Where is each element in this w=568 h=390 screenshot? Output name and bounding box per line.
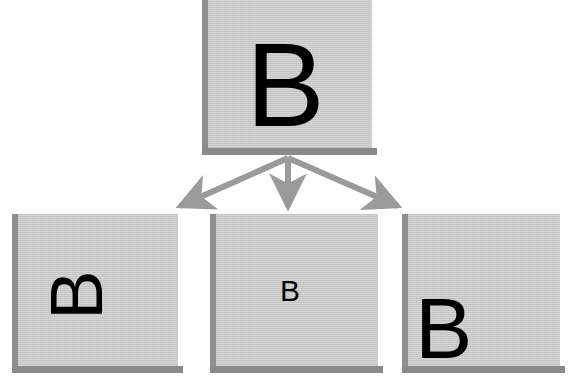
arrow-to-right-tile	[288, 158, 398, 206]
result-tile-rotated-letter: B	[40, 270, 114, 319]
arrow-to-left-tile	[180, 158, 288, 206]
result-tile-translated-left-edge	[402, 214, 408, 372]
source-tile-left-edge	[202, 0, 208, 155]
diagram-canvas: B B B B	[0, 0, 568, 390]
result-tile-translated-letter: B	[415, 285, 472, 371]
result-tile-scaled-letter: B	[280, 276, 300, 306]
result-tile-rotated-bottom-edge	[12, 366, 183, 373]
source-tile-letter: B	[246, 26, 325, 144]
result-tile-scaled-bottom-edge	[210, 366, 383, 373]
result-tile-scaled-left-edge	[210, 214, 216, 372]
result-tile-rotated-left-edge	[12, 214, 18, 372]
